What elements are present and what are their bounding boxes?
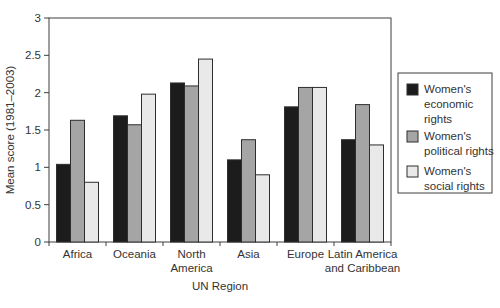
x-axis-title: UN Region [192, 280, 248, 292]
y-tick-label: 2.5 [25, 49, 41, 61]
y-tick-label: 1.5 [25, 124, 41, 136]
bar-north-america-economic [171, 83, 185, 242]
y-axis-title: Mean score (1981–2003) [4, 66, 16, 195]
category-label-north-america: North [177, 248, 205, 260]
bar-europe-economic [285, 107, 299, 242]
bar-europe-social [313, 87, 327, 242]
category-label-latin-america-and-caribbean: and Caribbean [325, 262, 400, 274]
bar-north-america-political [185, 86, 199, 242]
bar-europe-political [299, 87, 313, 242]
bar-asia-political [242, 140, 256, 242]
legend-swatch-economic [407, 84, 418, 95]
bar-latin-america-and-caribbean-social [370, 145, 384, 242]
bar-latin-america-and-caribbean-political [356, 105, 370, 242]
bar-africa-political [71, 120, 85, 242]
category-label-oceania: Oceania [113, 248, 156, 260]
bar-africa-social [85, 182, 99, 242]
category-label-asia: Asia [237, 248, 260, 260]
bar-asia-economic [228, 160, 242, 242]
category-label-latin-america-and-caribbean: Latin America [328, 248, 398, 260]
plot-border [49, 18, 391, 242]
y-tick-label: 0.5 [25, 199, 41, 211]
bar-latin-america-and-caribbean-economic [342, 140, 356, 242]
legend-label-economic: economic [424, 98, 473, 110]
grouped-bar-chart: 00.511.522.53AfricaOceaniaNorthAmericaAs… [0, 0, 500, 308]
bar-north-america-social [199, 59, 213, 242]
category-label-north-america: America [170, 262, 213, 274]
y-tick-label: 2 [35, 87, 41, 99]
legend-label-political: political rights [424, 145, 494, 157]
bar-chart-figure: 00.511.522.53AfricaOceaniaNorthAmericaAs… [0, 0, 500, 308]
legend-swatch-political [407, 131, 418, 142]
bar-oceania-economic [114, 116, 128, 242]
category-label-africa: Africa [63, 248, 93, 260]
bar-oceania-social [142, 94, 156, 242]
legend-label-economic: rights [424, 113, 452, 125]
chart-generated-content: 00.511.522.53AfricaOceaniaNorthAmericaAs… [25, 12, 494, 274]
bar-asia-social [256, 175, 270, 242]
category-label-europe: Europe [287, 248, 324, 260]
bar-oceania-political [128, 125, 142, 242]
y-tick-label: 3 [35, 12, 41, 24]
legend-label-political: Women's [424, 130, 472, 142]
legend-label-social: Women's [424, 165, 472, 177]
legend-swatch-social [407, 166, 418, 177]
bar-africa-economic [57, 164, 71, 242]
y-tick-label: 0 [35, 236, 41, 248]
y-tick-label: 1 [35, 161, 41, 173]
legend-label-social: social rights [424, 180, 485, 192]
legend-label-economic: Women's [424, 83, 472, 95]
